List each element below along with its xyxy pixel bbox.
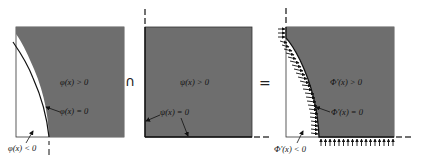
equals-operator: = bbox=[259, 75, 271, 91]
Phi-prime-panel: Φ'(x) > 0 Φ'(x) = 0 Φ'(x) < 0 bbox=[274, 8, 411, 154]
level-set-diagram: φ(x) > 0 φ(x) = 0 φ(x) < 0 ∩ ψ(x) > 0 ψ(… bbox=[0, 0, 422, 163]
Phi-prime-positive-label: Φ'(x) > 0 bbox=[330, 77, 363, 87]
phi-panel: φ(x) > 0 φ(x) = 0 φ(x) < 0 bbox=[8, 27, 124, 155]
Phi-prime-negative-label: Φ'(x) < 0 bbox=[274, 144, 307, 154]
psi-panel: ψ(x) > 0 ψ(x) = 0 bbox=[145, 9, 269, 137]
phi-negative-label: φ(x) < 0 bbox=[8, 143, 37, 153]
psi-positive-label: ψ(x) > 0 bbox=[180, 77, 210, 87]
intersection-operator: ∩ bbox=[125, 73, 135, 89]
Phi-prime-zero-label: Φ'(x) = 0 bbox=[331, 107, 364, 117]
Phi-prime-bottom-hatch-arrows bbox=[321, 139, 393, 146]
phi-zero-label: φ(x) = 0 bbox=[60, 106, 89, 116]
phi-positive-label: φ(x) > 0 bbox=[60, 77, 89, 87]
psi-zero-label: ψ(x) = 0 bbox=[160, 107, 190, 117]
